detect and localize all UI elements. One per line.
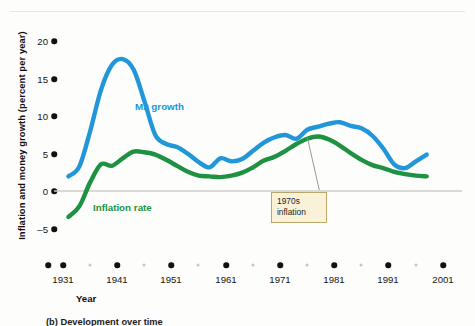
series-label-m2-growth: M2 growth [135,101,184,112]
x-tick-label-1941: 1941 [97,274,137,285]
x-tick-dot-1966 [252,264,255,267]
x-axis-origin-dot [45,262,51,268]
x-tick-dot-1981 [331,262,337,268]
chart-figure: Inflation and money growth (percent per … [0,0,475,326]
x-tick-label-1991: 1991 [368,274,408,285]
figure-caption: (b) Development over time [46,317,163,326]
x-tick-label-1961: 1961 [206,274,246,285]
x-tick-label-1981: 1981 [314,274,354,285]
x-tick-dot-1996 [415,264,418,267]
x-tick-label-2001: 2001 [423,274,463,285]
x-axis-title: Year [76,293,96,304]
x-tick-dot-1991 [385,262,391,268]
x-tick-dot-1931 [60,262,66,268]
x-tick-dot-1961 [223,262,229,268]
x-tick-label-1931: 1931 [43,274,83,285]
x-tick-label-1971: 1971 [260,274,300,285]
x-tick-dot-1956 [197,264,200,267]
callout-line-2: inflation [277,207,321,218]
x-tick-dot-1976 [306,264,309,267]
x-tick-label-1951: 1951 [151,274,191,285]
x-tick-dot-1941 [114,262,120,268]
series-label-inflation-rate: Inflation rate [93,202,152,213]
x-tick-dot-2001 [440,262,446,268]
x-tick-dot-1951 [168,262,174,268]
callout-leader-line [307,137,319,190]
x-tick-dot-1986 [360,264,363,267]
x-tick-dot-1971 [277,262,283,268]
callout-line-1: 1970s [277,196,321,207]
x-tick-dot-1936 [89,264,92,267]
x-tick-dot-1946 [143,264,146,267]
callout-1970s-inflation: 1970s inflation [271,192,327,223]
